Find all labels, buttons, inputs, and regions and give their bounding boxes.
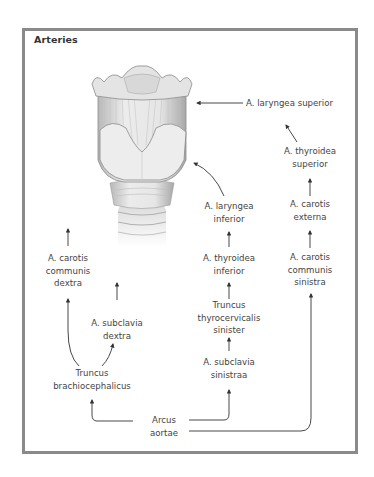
label-a-subclavia-dextra: A. subclavia dextra: [91, 317, 143, 342]
trachea-icon: [118, 205, 166, 247]
label-a-carotis-communis-sinistra: A. carotis communis sinistra: [288, 251, 332, 289]
label-a-thyroidea-superior: A. thyroidea superior: [284, 145, 336, 170]
arrow-brachiocephalicus-to-subclavia-dextra: [102, 344, 113, 366]
diagram-graphics: [0, 0, 374, 477]
label-arcus-aortae: Arcus aortae: [150, 414, 178, 439]
arrow-thyroidea-superior: [286, 125, 297, 142]
larynx-illustration: [92, 66, 192, 247]
arrow-arcus-to-brachiocephalicus: [92, 400, 133, 421]
label-truncus-brachiocephalicus: Truncus brachiocephalicus: [53, 367, 131, 392]
label-a-laryngea-inferior: A. laryngea inferior: [205, 200, 254, 225]
arrow-brachiocephalicus-to-carotis-dextra: [68, 299, 79, 366]
arrow-laryngea-inferior: [194, 163, 224, 196]
label-a-carotis-communis-dextra: A. carotis communis dextra: [46, 252, 90, 290]
label-a-subclavia-sinistra: A. subclavia sinistraa: [203, 356, 255, 381]
label-a-laryngea-superior: A. laryngea superior: [246, 97, 333, 109]
label-truncus-thyrocervicalis-sinister: Truncus thyrocervicalis sinister: [198, 299, 261, 337]
label-a-thyroidea-inferior: A. thyroidea inferior: [203, 252, 255, 277]
label-a-carotis-externa: A. carotis externa: [290, 198, 330, 223]
arrow-arcus-to-subclavia-sinistra: [189, 390, 229, 420]
